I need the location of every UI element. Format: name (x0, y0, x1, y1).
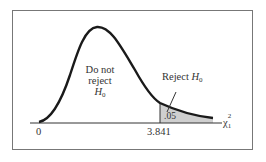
tick-critical-value: 3.841 (147, 126, 171, 137)
reject-label: Reject H0 (162, 71, 203, 86)
alpha-label: .05 (164, 111, 176, 122)
tick-zero: 0 (36, 126, 41, 137)
do-not-reject-label: Do not reject H0 (80, 64, 120, 101)
chart-plot (0, 0, 266, 162)
x-axis-label: χ21 (223, 117, 228, 128)
